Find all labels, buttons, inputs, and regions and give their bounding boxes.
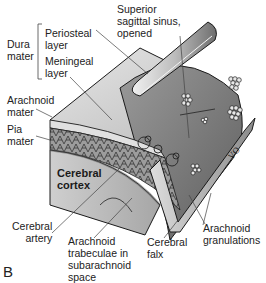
label-cerebral-falx: Cerebral falx	[147, 236, 187, 260]
label-arachnoid-trabeculae: Arachnoid trabeculae in subarachnoid spa…	[68, 235, 131, 283]
label-meningeal-layer: Meningeal layer	[45, 55, 93, 79]
label-cerebral-artery: Cerebral artery	[12, 220, 52, 244]
panel-letter: B	[3, 263, 13, 280]
dura-bracket	[38, 24, 42, 79]
label-dura-mater: Dura mater	[7, 38, 34, 62]
label-superior-sagittal-sinus: Superior sagittal sinus, opened	[117, 3, 181, 39]
granulation-cluster-1	[229, 77, 242, 91]
label-periosteal-layer: Periosteal layer	[45, 27, 92, 51]
label-cerebral-cortex: Cerebral cortex	[57, 167, 102, 191]
label-arachnoid-granulations: Arachnoid granulations	[203, 222, 260, 246]
label-arachnoid-mater: Arachnoid mater	[7, 94, 54, 118]
label-pia-mater: Pia mater	[7, 123, 34, 147]
